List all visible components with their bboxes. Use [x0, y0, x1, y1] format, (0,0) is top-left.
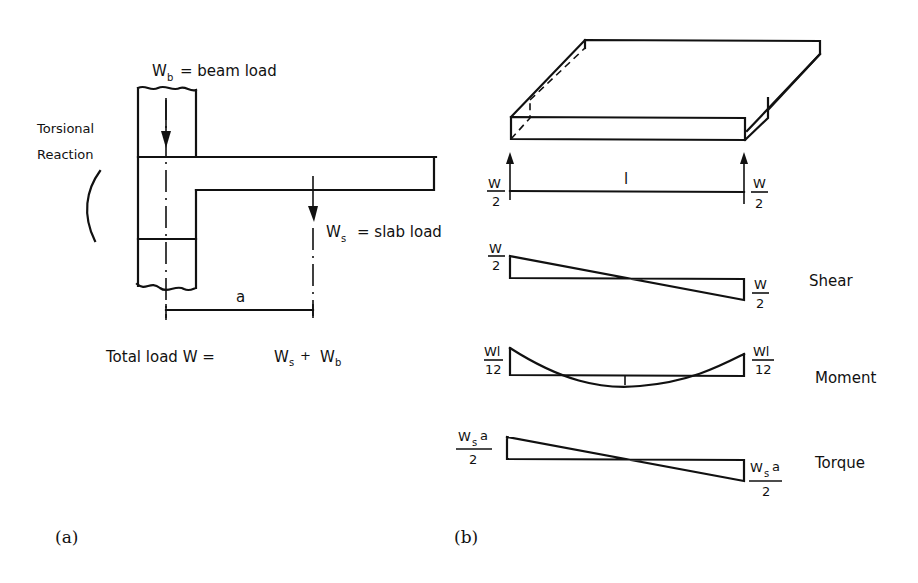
shear-diagram: W 2 W 2 Shear [488, 241, 853, 311]
moment-label: Moment [815, 369, 876, 387]
torque-diagram: W s a 2 W s a 2 Torque [456, 428, 865, 499]
total-load-term1: W [274, 348, 289, 366]
beam-load-subscript: b [167, 72, 173, 83]
beam-load-arrow-icon [161, 131, 171, 148]
shear-left-numerator: W [489, 241, 502, 256]
left-reaction-denominator: 2 [492, 194, 500, 209]
dimension-label-a: a [236, 288, 245, 306]
shear-right-numerator: W [754, 277, 767, 292]
torque-right-numerator: W [750, 460, 763, 475]
left-reaction-label: W 2 [487, 176, 505, 209]
torque-left-numerator-tail: a [480, 428, 488, 443]
moment-left-denominator: 12 [485, 362, 502, 377]
beam-load-text: = beam load [180, 62, 277, 80]
shear-label: Shear [809, 272, 853, 290]
figure-canvas: W b = beam load Torsional Reaction W s [0, 0, 918, 583]
total-load-prefix: Total load W = [105, 348, 215, 366]
beam-load-label: W b = beam load [152, 62, 277, 83]
right-reaction-numerator: W [753, 176, 766, 191]
slab-isometric [511, 40, 820, 140]
torque-left-denominator: 2 [469, 452, 477, 467]
slab-load-text: = slab load [357, 223, 442, 241]
left-reaction-numerator: W [488, 176, 501, 191]
torsional-reaction-line-1: Torsional [36, 121, 94, 136]
right-reaction-label: W 2 [751, 176, 768, 211]
panel-b: l W 2 W 2 W 2 W 2 Shear Wl [454, 40, 876, 547]
right-reaction-arrow-icon [740, 152, 748, 164]
moment-right-denominator: 12 [755, 362, 772, 377]
right-reaction-denominator: 2 [755, 196, 763, 211]
slab-outline [138, 157, 436, 190]
torsional-reaction-label: Torsional Reaction [36, 121, 94, 162]
torque-label: Torque [814, 454, 865, 472]
total-load-equation: Total load W = W s + W b [105, 348, 341, 368]
torque-right-numerator-tail: a [772, 459, 780, 474]
moment-right-numerator: Wl [753, 344, 769, 359]
torque-right-numerator-sub: s [764, 468, 769, 479]
torque-left-numerator-sub: s [472, 437, 477, 448]
torsion-arrow-icon [87, 171, 100, 241]
left-reaction-arrow-icon [506, 152, 514, 164]
slab-load-label: W s = slab load [326, 223, 442, 244]
moment-diagram: Wl 12 Wl 12 Moment [484, 344, 876, 387]
torque-left-numerator: W [458, 429, 471, 444]
moment-left-numerator: Wl [484, 344, 500, 359]
panel-b-caption: (b) [454, 527, 478, 547]
shear-right-denominator: 2 [756, 296, 764, 311]
slab-load-arrow-icon [308, 206, 318, 222]
torque-right-denominator: 2 [762, 484, 770, 499]
panel-a: W b = beam load Torsional Reaction W s [36, 62, 442, 547]
span-line [510, 191, 744, 192]
total-load-term2-sub: b [335, 357, 341, 368]
torsional-reaction-line-2: Reaction [37, 147, 93, 162]
beam-load-symbol: W [152, 62, 167, 80]
panel-a-caption: (a) [55, 527, 78, 547]
slab-load-subscript: s [341, 233, 346, 244]
total-load-term2: W [320, 348, 335, 366]
slab-load-symbol: W [326, 223, 341, 241]
shear-left-denominator: 2 [492, 258, 500, 273]
total-load-plus: + [300, 348, 311, 363]
span-label: l [624, 170, 628, 188]
total-load-term1-sub: s [289, 357, 294, 368]
